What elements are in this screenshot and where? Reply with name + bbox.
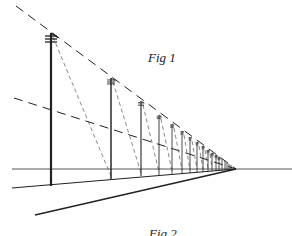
diagonal-construction-lines	[53, 37, 212, 176]
dashed-guide-line	[16, 6, 236, 169]
diagonal-construction-line	[53, 37, 111, 176]
figure-caption-1: Fig 1	[148, 50, 176, 66]
dashed-guide-lines	[14, 6, 236, 169]
ground-line	[12, 169, 236, 188]
figure-caption-2: Fig 2	[149, 226, 177, 236]
perspective-drawing	[0, 0, 292, 236]
ground-line	[35, 169, 236, 215]
diagonal-construction-line	[161, 119, 172, 171]
diagonal-construction-line	[143, 105, 159, 172]
ground-lines	[12, 169, 292, 215]
